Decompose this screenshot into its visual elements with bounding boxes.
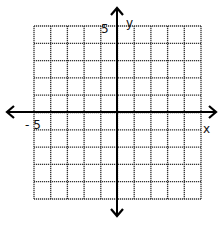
x-axis-label: x bbox=[203, 122, 210, 136]
y-axis-label: y bbox=[126, 16, 133, 30]
x-min-label: - 5 bbox=[25, 118, 41, 132]
y-max-label: 5 bbox=[101, 22, 109, 36]
coordinate-plane: 5 y - 5 x bbox=[0, 0, 223, 226]
